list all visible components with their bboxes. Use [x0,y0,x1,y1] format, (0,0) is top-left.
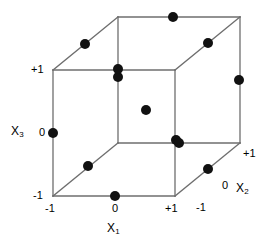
x2-axis-title-name: X [236,181,244,195]
design-points [48,12,244,201]
design-point [203,38,213,48]
x3-axis-title-subscript: 3 [19,130,24,139]
x1-axis-title: X1 [107,222,120,236]
x2-tick-minus1: -1 [196,202,206,213]
x3-axis-title-name: X [11,124,19,138]
design-point [174,138,184,148]
design-point [141,105,151,115]
cube-wireframe-svg [0,0,270,242]
x2-tick-plus1: +1 [243,148,256,159]
x3-tick-minus1: -1 [33,190,43,201]
x3-axis-title: X3 [11,125,24,139]
design-point [83,161,93,171]
x3-tick-zero: 0 [39,127,45,138]
x2-axis-title-subscript: 2 [244,187,249,196]
design-point [110,191,120,201]
x1-tick-minus1: -1 [45,203,55,214]
design-point [48,128,58,138]
design-point [234,75,244,85]
design-point [80,39,90,49]
x2-tick-zero: 0 [222,180,228,191]
design-point [113,64,123,74]
x1-axis-title-name: X [107,221,115,235]
cube-design-figure: +1 0 -1 X3 -1 0 +1 X1 -1 0 +1 X2 [0,0,270,242]
x2-axis-title: X2 [236,182,249,196]
design-point [203,164,213,174]
x1-tick-zero: 0 [112,203,118,214]
x1-tick-plus1: +1 [165,203,178,214]
design-point [168,12,178,22]
x1-axis-title-subscript: 1 [115,227,120,236]
x3-tick-plus1: +1 [31,64,44,75]
